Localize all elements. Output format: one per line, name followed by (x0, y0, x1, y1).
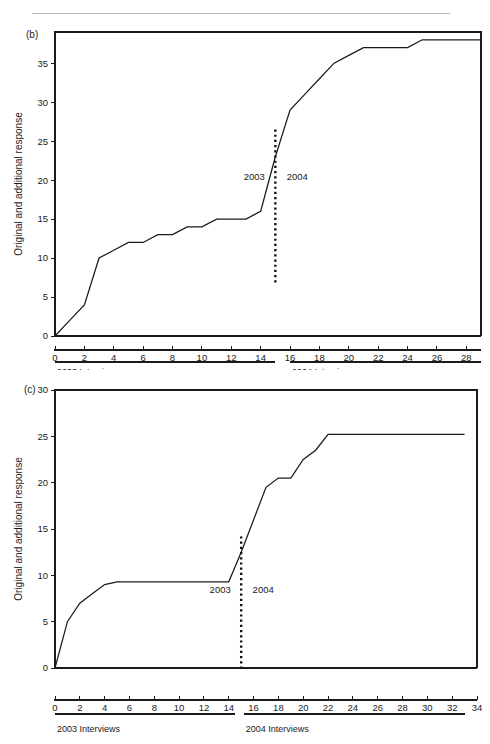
x-tick-label-c-11: 22 (323, 702, 334, 713)
y-axis-title-b: Original and additional response (13, 112, 24, 256)
x-tick-label-c-8: 16 (248, 702, 259, 713)
year-label-left-b: 2003 (244, 171, 265, 182)
interview-bracket-label-c-0: 2003 Interviews (57, 724, 121, 734)
x-tick-label-c-2: 4 (102, 702, 107, 713)
plot-frame-c (55, 390, 477, 668)
x-tick-label-c-12: 24 (348, 702, 359, 713)
x-tick-label-c-1: 2 (77, 702, 82, 713)
y-tick-label-b-3: 15 (37, 213, 48, 224)
x-tick-label-c-5: 10 (174, 702, 185, 713)
panel-label-b: (b) (26, 29, 38, 40)
x-tick-label-c-10: 20 (298, 702, 309, 713)
x-tick-label-c-6: 12 (199, 702, 210, 713)
figure-panel-b: 05101520253035Original and additional re… (0, 10, 490, 370)
figure-panel-c: 051015202530Original and additional resp… (0, 378, 490, 744)
x-tick-label-c-14: 28 (397, 702, 408, 713)
y-tick-label-b-4: 20 (37, 175, 48, 186)
x-tick-label-c-15: 30 (422, 702, 433, 713)
x-tick-label-c-17: 34 (472, 702, 483, 713)
figure-page: 05101520253035Original and additional re… (0, 0, 490, 744)
y-tick-label-b-2: 10 (37, 252, 48, 263)
panel-label-c: (c) (24, 384, 36, 395)
y-tick-label-c-1: 5 (43, 616, 48, 627)
data-series-line-c (55, 434, 465, 668)
x-tick-label-c-4: 8 (152, 702, 157, 713)
y-tick-label-c-5: 25 (37, 431, 48, 442)
year-label-right-c: 2004 (253, 584, 274, 595)
data-series-line-b (55, 40, 481, 336)
x-tick-label-c-3: 6 (127, 702, 132, 713)
interview-bracket-label-c-1: 2004 Interviews (246, 724, 310, 734)
y-tick-label-c-6: 30 (37, 384, 48, 395)
x-tick-label-c-7: 14 (223, 702, 234, 713)
y-tick-label-b-0: 0 (43, 330, 48, 341)
chart-c-svg: 051015202530Original and additional resp… (0, 378, 490, 744)
y-tick-label-c-2: 10 (37, 570, 48, 581)
y-tick-label-b-6: 30 (37, 97, 48, 108)
y-tick-label-b-1: 5 (43, 291, 48, 302)
y-tick-label-c-3: 15 (37, 523, 48, 534)
x-tick-label-c-13: 26 (372, 702, 383, 713)
y-tick-label-c-0: 0 (43, 662, 48, 673)
chart-b-svg: 05101520253035Original and additional re… (0, 10, 490, 370)
y-axis-title-c: Original and additional response (13, 457, 24, 601)
x-tick-label-c-16: 32 (447, 702, 458, 713)
year-label-right-b: 2004 (287, 171, 308, 182)
interview-bracket-label-b-1: 2004 Interviews (292, 367, 356, 370)
x-tick-label-c-0: 0 (52, 702, 57, 713)
x-tick-label-c-9: 18 (273, 702, 284, 713)
y-tick-label-b-7: 35 (37, 58, 48, 69)
year-label-left-c: 2003 (210, 584, 231, 595)
y-tick-label-c-4: 20 (37, 477, 48, 488)
interview-bracket-label-b-0: 2003 Interviews (57, 367, 121, 370)
y-tick-label-b-5: 25 (37, 136, 48, 147)
